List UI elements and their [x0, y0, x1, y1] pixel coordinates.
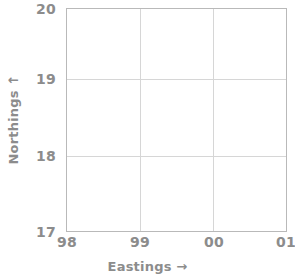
y-axis-title: Northings ↑: [6, 55, 21, 185]
y-tick-label-20: 20: [16, 1, 56, 17]
gridline-vertical-00: [213, 9, 214, 231]
chart-figure: 20 19 18 17 98 99 00 01 Eastings → North…: [0, 0, 295, 278]
x-tick-label-01: 01: [256, 234, 295, 250]
x-tick-label-00: 00: [184, 234, 244, 250]
gridline-horizontal-19: [67, 79, 286, 80]
y-tick-label-19: 19: [16, 71, 56, 87]
x-tick-label-98: 98: [37, 234, 97, 250]
gridline-vertical-99: [140, 9, 141, 231]
gridline-horizontal-18: [67, 156, 286, 157]
x-axis-title: Eastings →: [0, 259, 295, 274]
x-tick-label-99: 99: [110, 234, 170, 250]
plot-area: [66, 8, 287, 232]
y-tick-label-18: 18: [16, 148, 56, 164]
